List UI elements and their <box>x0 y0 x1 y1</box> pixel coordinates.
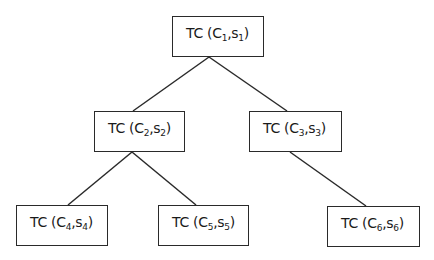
node-suffix: ) <box>88 214 93 230</box>
node-c: C <box>212 25 221 41</box>
tree-node-2: TC (C2,s2) <box>94 111 185 152</box>
node-prefix: TC ( <box>108 120 134 136</box>
edge-n2-n5 <box>132 152 196 205</box>
tree-node-1: TC (C1,s1) <box>172 16 264 57</box>
node-prefix: TC ( <box>263 120 289 136</box>
node-suffix: ) <box>244 25 249 41</box>
node-suffix: ) <box>230 214 235 230</box>
edge-n1-n3 <box>209 57 287 111</box>
node-suffix: ) <box>321 120 326 136</box>
tree-node-6: TC (C6,s6) <box>327 206 420 247</box>
node-c: C <box>367 215 376 231</box>
tree-node-3: TC (C3,s3) <box>249 111 342 152</box>
node-c: C <box>289 120 298 136</box>
node-c: C <box>198 214 207 230</box>
node-suffix: ) <box>399 215 404 231</box>
edge-n3-n6 <box>290 152 366 206</box>
tree-node-4: TC (C4,s4) <box>16 205 108 246</box>
edge-n2-n4 <box>68 152 132 205</box>
node-c: C <box>56 214 65 230</box>
node-prefix: TC ( <box>186 25 212 41</box>
edge-n1-n2 <box>133 57 209 111</box>
node-prefix: TC ( <box>30 214 56 230</box>
tree-node-5: TC (C5,s5) <box>158 205 249 246</box>
node-prefix: TC ( <box>172 214 198 230</box>
node-prefix: TC ( <box>341 215 367 231</box>
node-suffix: ) <box>166 120 171 136</box>
node-c: C <box>134 120 143 136</box>
